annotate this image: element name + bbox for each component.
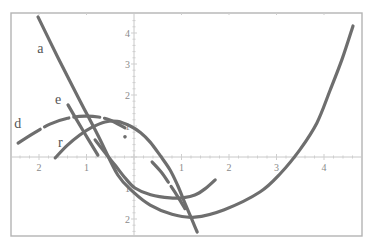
curve-label-r: r [58,135,63,150]
curve-label-e: e [55,92,61,107]
plot-frame [11,13,362,236]
x-tick-label: 3 [274,162,279,173]
curve-label-d: d [14,116,21,131]
curve-d-dot [123,135,127,139]
y-tick-label: 2 [125,90,130,101]
chart: 211234432112 adre [0,0,370,245]
x-tick-label: 4 [322,162,327,173]
x-tick-label: 2 [37,162,42,173]
curve-label-a: a [37,41,44,56]
y-tick-label: 2 [125,214,130,225]
x-tick-label: 1 [179,162,184,173]
y-tick-label: 3 [125,59,130,70]
x-tick-label: 2 [227,162,232,173]
curves [18,17,353,232]
y-tick-label: 4 [125,28,130,39]
x-tick-label: 1 [84,162,89,173]
curve-labels: adre [14,41,63,150]
